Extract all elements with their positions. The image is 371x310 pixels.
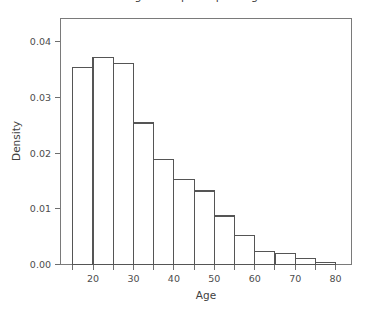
histogram-chart: Histogram of participant age 0.00 0.01 0… xyxy=(0,0,371,310)
x-tick-label: 30 xyxy=(127,273,139,284)
histogram-bar xyxy=(133,123,153,264)
y-tick-label: 0.03 xyxy=(30,92,51,103)
histogram-bar xyxy=(93,57,113,264)
histogram-bar xyxy=(255,251,275,264)
histogram-bar xyxy=(275,254,295,265)
y-tick-label: 0.01 xyxy=(30,203,51,214)
y-tick-group: 0.03 xyxy=(30,92,60,103)
x-minor-ticks xyxy=(73,265,316,270)
histogram-bar xyxy=(235,236,255,265)
y-axis-title: Density xyxy=(10,121,22,161)
x-tick-label: 20 xyxy=(87,273,99,284)
x-tick-label: 70 xyxy=(289,273,301,284)
y-axis: 0.00 0.01 0.02 0.03 0.04 xyxy=(30,36,60,270)
histogram-bar xyxy=(295,258,315,264)
x-axis-title: Age xyxy=(196,289,216,301)
x-tick-group: 40 xyxy=(168,265,180,285)
y-tick-label: 0.02 xyxy=(30,148,51,159)
x-tick-group: 20 xyxy=(87,265,99,285)
histogram-bar xyxy=(315,262,335,264)
x-tick-label: 80 xyxy=(330,273,342,284)
y-tick-group: 0.04 xyxy=(30,36,60,47)
x-axis: 20 30 40 50 60 70 xyxy=(87,265,342,285)
x-tick-group: 70 xyxy=(289,265,301,285)
x-tick-group: 80 xyxy=(330,265,342,285)
x-tick-label: 50 xyxy=(208,273,220,284)
x-tick-label: 60 xyxy=(249,273,261,284)
y-tick-label: 0.00 xyxy=(30,259,51,270)
plot-frame xyxy=(61,19,352,265)
histogram-bar xyxy=(174,179,194,264)
plot-area: 0.00 0.01 0.02 0.03 0.04 Density xyxy=(0,0,371,310)
x-tick-group: 50 xyxy=(208,265,220,285)
histogram-bar xyxy=(154,159,174,264)
y-tick-group: 0.00 xyxy=(30,259,60,270)
histogram-bars xyxy=(73,57,336,264)
histogram-bar xyxy=(214,216,234,264)
y-tick-group: 0.01 xyxy=(30,203,60,214)
y-tick-label: 0.04 xyxy=(30,36,51,47)
x-tick-group: 60 xyxy=(249,265,261,285)
x-tick-group: 30 xyxy=(127,265,139,285)
x-tick-label: 40 xyxy=(168,273,180,284)
histogram-bar xyxy=(73,67,93,264)
y-tick-group: 0.02 xyxy=(30,148,60,159)
histogram-bar xyxy=(194,191,214,265)
histogram-bar xyxy=(113,63,133,264)
